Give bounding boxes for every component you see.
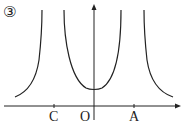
graph-canvas [0,0,181,127]
x-axis-arrow-icon [175,104,181,109]
curve-middle-branch [64,10,121,90]
curve-left-branch [15,10,42,97]
label-origin: O [80,110,90,124]
curve-right-branch [144,10,173,97]
label-c: C [49,110,58,124]
figure-number-label: ③ [3,5,16,20]
y-axis-arrow-icon [92,4,97,10]
label-a: A [129,110,139,124]
